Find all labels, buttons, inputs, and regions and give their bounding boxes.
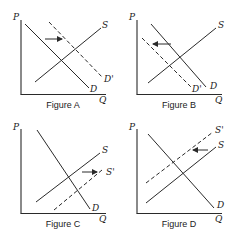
supply-label: S bbox=[218, 140, 224, 150]
figure-a: P Q S D' D Figure A bbox=[12, 12, 114, 110]
supply-curve bbox=[148, 28, 216, 83]
demand-label: D bbox=[216, 200, 224, 210]
figure-caption: Figure B bbox=[162, 100, 196, 110]
shifted-demand-curve bbox=[142, 38, 191, 87]
supply-label: S bbox=[218, 20, 224, 30]
demand-curve bbox=[25, 24, 89, 88]
demand-label: D bbox=[91, 203, 99, 213]
quantity-axis-label: Q bbox=[215, 214, 223, 224]
shifted-supply-label: S' bbox=[106, 167, 115, 177]
figure-d: P Q S' S D Figure D bbox=[128, 122, 224, 229]
price-axis-label: P bbox=[12, 12, 20, 22]
supply-label: S bbox=[102, 20, 108, 30]
figure-caption: Figure A bbox=[46, 100, 80, 110]
figure-b: P Q S D' D Figure B bbox=[128, 12, 224, 110]
supply-curve bbox=[35, 28, 101, 82]
figure-caption: Figure D bbox=[162, 219, 197, 229]
demand-curve bbox=[151, 24, 206, 87]
demand-label: D bbox=[89, 84, 97, 94]
quantity-axis-label: Q bbox=[215, 95, 223, 105]
price-axis-label: P bbox=[128, 12, 136, 22]
demand-curve bbox=[148, 134, 214, 208]
demand-label: D bbox=[209, 81, 217, 91]
price-axis-label: P bbox=[128, 122, 136, 132]
price-axis-label: P bbox=[12, 122, 20, 132]
shifted-demand-label: D' bbox=[191, 84, 202, 94]
figure-caption: Figure C bbox=[46, 219, 81, 229]
figure-c: P Q S S' D Figure C bbox=[12, 122, 115, 229]
demand-curve bbox=[37, 130, 90, 209]
supply-label: S bbox=[102, 145, 108, 155]
supply-curve bbox=[36, 153, 100, 202]
shifted-demand-label: D' bbox=[103, 74, 114, 84]
shifted-supply-label: S' bbox=[215, 125, 224, 135]
quantity-axis-label: Q bbox=[99, 95, 107, 105]
supply-demand-figures: P Q S D' D Figure A P Q S D' D Figure B … bbox=[0, 0, 233, 239]
quantity-axis-label: Q bbox=[99, 214, 107, 224]
shifted-demand-curve bbox=[49, 22, 103, 78]
